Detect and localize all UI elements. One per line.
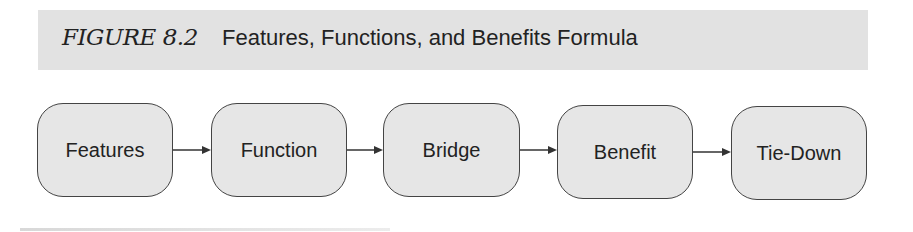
arrow-right-icon	[173, 145, 211, 155]
node-label: Tie-Down	[757, 142, 842, 165]
arrow-right-icon	[520, 145, 557, 155]
figure-label: FIGURE 8.2	[62, 24, 198, 50]
node-label: Benefit	[594, 141, 656, 164]
node-label: Bridge	[423, 139, 481, 162]
node-label: Features	[66, 139, 145, 162]
node-function: Function	[211, 103, 347, 197]
arrow-right-icon	[693, 147, 731, 157]
node-tie-down: Tie-Down	[731, 106, 867, 200]
node-benefit: Benefit	[557, 105, 693, 199]
node-bridge: Bridge	[383, 103, 520, 197]
figure-title: Features, Functions, and Benefits Formul…	[222, 25, 638, 51]
node-label: Function	[241, 139, 318, 162]
arrow-right-icon	[347, 145, 383, 155]
bottom-rule	[20, 228, 390, 231]
node-features: Features	[37, 103, 173, 197]
